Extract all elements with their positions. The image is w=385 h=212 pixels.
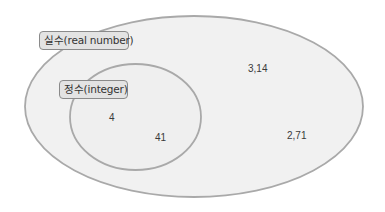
venn-diagram: 실수(real number) 정수(integer) 3,14 2,71 4 … <box>0 0 385 212</box>
real-number-label: 실수(real number) <box>39 31 129 50</box>
element-4: 4 <box>109 113 115 123</box>
element-3-14: 3,14 <box>248 64 267 74</box>
element-2-71: 2,71 <box>287 131 306 141</box>
element-41: 41 <box>155 133 166 143</box>
integer-label: 정수(integer) <box>59 80 128 99</box>
